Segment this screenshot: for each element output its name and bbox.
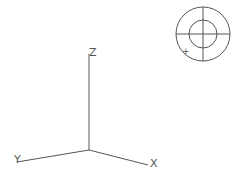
y-axis-label: Y (13, 153, 21, 166)
x-axis-line (89, 150, 148, 165)
ucs-axis-tripod (17, 54, 148, 165)
compass-position-marker: + (182, 46, 190, 56)
ucs-diagram: Z Y X + (0, 0, 239, 175)
z-axis-label: Z (89, 46, 97, 59)
x-axis-label: X (150, 157, 158, 170)
y-axis-line (17, 150, 89, 162)
